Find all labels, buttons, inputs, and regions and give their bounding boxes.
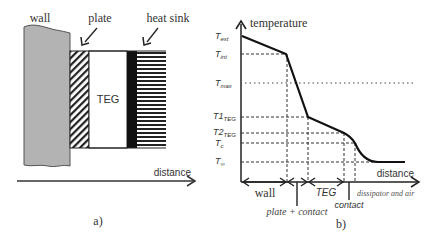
heat-sink-base: [127, 51, 137, 148]
x-axis-label: distance: [377, 168, 415, 179]
y-tick-text-int: Tint: [215, 49, 227, 60]
diagram-canvas: wall plate TEG heat sink distance a): [0, 0, 438, 243]
y-axis-label: temperature: [250, 16, 307, 30]
y-tick-text-c: Tc: [215, 138, 224, 149]
region-plate-contact-label: plate + contact: [265, 206, 327, 217]
caption-b: b): [336, 217, 346, 231]
distance-label-a: distance: [154, 167, 192, 178]
y-tick-text-inf: T∞: [215, 156, 225, 167]
heat-sink-fins: [137, 51, 166, 148]
panel-a: wall plate TEG heat sink distance a): [17, 11, 195, 228]
heat-sink-label: heat sink: [147, 11, 190, 25]
caption-a: a): [93, 214, 102, 228]
plate-shape: [70, 51, 89, 148]
y-tick-text-t2teg: T2TEG: [213, 127, 236, 138]
panel-b: temperature distance Text Tint Tmax T1TE…: [213, 16, 419, 231]
region-dissipator-label: dissipator and air: [357, 189, 415, 198]
plate-label: plate: [88, 11, 111, 25]
wall-label: wall: [30, 11, 51, 25]
y-tick-labels: Text Tint Tmax T1TEG T2TEG Tc T∞: [213, 31, 236, 167]
region-teg-label: TEG: [316, 187, 337, 198]
teg-label: TEG: [97, 93, 120, 105]
region-contact-label: contact: [334, 200, 364, 210]
y-tick-text-ext: Text: [215, 31, 229, 42]
y-tick-text-t1teg: T1TEG: [213, 111, 236, 122]
wall-shape: [24, 25, 70, 167]
region-wall-label: wall: [255, 186, 276, 200]
vertical-guides: [287, 54, 355, 182]
heat-sink-arrow-icon: [143, 28, 158, 45]
plate-arrow-icon: [81, 28, 97, 45]
y-tick-text-max: Tmax: [215, 78, 233, 89]
